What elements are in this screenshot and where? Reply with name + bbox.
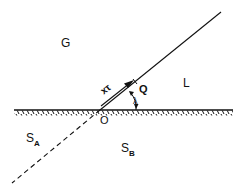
label-angle: λ [133, 96, 138, 106]
label-solid-b: S B [121, 141, 135, 158]
ground-hatching [14, 111, 233, 116]
dashed-extension-line [12, 110, 100, 183]
svg-text:A: A [34, 139, 40, 148]
label-point-q: Q [139, 83, 148, 95]
label-gas: G [61, 36, 70, 50]
svg-text:S: S [121, 141, 129, 155]
interface-line [100, 12, 221, 110]
label-distance: xτ [98, 81, 113, 96]
label-origin: O [100, 114, 109, 126]
label-liquid: L [183, 76, 190, 90]
svg-text:B: B [129, 149, 135, 158]
contact-angle-diagram: G L Q O xτ λ S A S B [0, 0, 246, 193]
svg-text:S: S [26, 131, 34, 145]
label-solid-a: S A [26, 131, 40, 148]
